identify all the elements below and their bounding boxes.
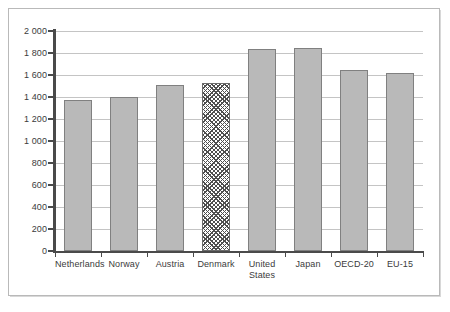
x-axis-tick xyxy=(239,253,240,257)
y-axis-tick-label: 200 xyxy=(9,225,47,234)
x-axis-category-label: Japan xyxy=(285,259,331,270)
x-axis-category-label: United States xyxy=(239,259,285,281)
x-axis-tick xyxy=(285,253,286,257)
x-axis-tick xyxy=(147,253,148,257)
y-axis-tick xyxy=(48,30,54,32)
y-axis-tick-label: 600 xyxy=(9,181,47,190)
x-axis-tick xyxy=(331,253,332,257)
gridline xyxy=(55,53,423,54)
y-axis-tick xyxy=(48,74,54,76)
x-axis-tick xyxy=(423,253,424,257)
y-axis-tick-label: 1 400 xyxy=(9,93,47,102)
x-axis-category-label: EU-15 xyxy=(377,259,423,270)
y-axis-tick xyxy=(48,140,54,142)
x-axis-category-label: Norway xyxy=(101,259,147,270)
y-axis-labels: 02004006008001 0001 2001 4001 6001 8002 … xyxy=(9,9,47,297)
x-axis-category-label: Austria xyxy=(147,259,193,270)
y-axis-tick xyxy=(48,118,54,120)
y-axis-tick xyxy=(48,184,54,186)
plot-area xyxy=(55,31,423,251)
x-axis-tick xyxy=(377,253,378,257)
y-axis-tick-label: 0 xyxy=(9,247,47,256)
bar-netherlands[interactable] xyxy=(64,100,93,251)
y-axis-tick xyxy=(48,228,54,230)
y-axis-tick xyxy=(48,96,54,98)
x-axis-tick xyxy=(55,253,56,257)
bar-denmark[interactable] xyxy=(202,83,231,251)
y-axis-tick-label: 1 600 xyxy=(9,71,47,80)
y-axis-tick-label: 800 xyxy=(9,159,47,168)
y-axis-tick-label: 400 xyxy=(9,203,47,212)
y-axis-tick-label: 1 200 xyxy=(9,115,47,124)
x-axis-category-label: Netherlands xyxy=(55,259,101,270)
x-axis-category-label: Denmark xyxy=(193,259,239,270)
y-axis-tick xyxy=(48,52,54,54)
bar-eu-15[interactable] xyxy=(386,73,415,251)
y-axis-tick-label: 2 000 xyxy=(9,27,47,36)
bar-norway[interactable] xyxy=(110,97,139,251)
gridline xyxy=(55,31,423,32)
bar-united-states[interactable] xyxy=(248,49,277,251)
y-axis-tick-label: 1 800 xyxy=(9,49,47,58)
bar-oecd-20[interactable] xyxy=(340,70,369,251)
y-axis-tick-label: 1 000 xyxy=(9,137,47,146)
x-axis-labels: NetherlandsNorwayAustriaDenmarkUnited St… xyxy=(55,259,423,293)
x-axis-tick xyxy=(101,253,102,257)
x-axis-category-label: OECD-20 xyxy=(331,259,377,270)
bar-japan[interactable] xyxy=(294,48,323,251)
y-axis-tick xyxy=(48,206,54,208)
bar-austria[interactable] xyxy=(156,85,185,251)
chart-figure: 02004006008001 0001 2001 4001 6001 8002 … xyxy=(8,8,440,296)
y-axis-tick xyxy=(48,250,54,252)
x-axis-tick xyxy=(193,253,194,257)
y-axis-tick xyxy=(48,162,54,164)
